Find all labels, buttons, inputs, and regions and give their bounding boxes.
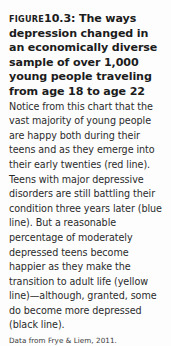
figure-number-and-lead: 10.3: The ways depression changed in an … [9, 12, 157, 98]
figure-label: FIGURE [9, 14, 44, 24]
figure-caption-paragraph: FIGURE10.3: The ways depression changed … [9, 12, 165, 333]
figure-caption-text: Notice from this chart that the vast maj… [9, 101, 162, 331]
figure-source-attribution: Data from Frye & Liem, 2011. [9, 336, 165, 346]
